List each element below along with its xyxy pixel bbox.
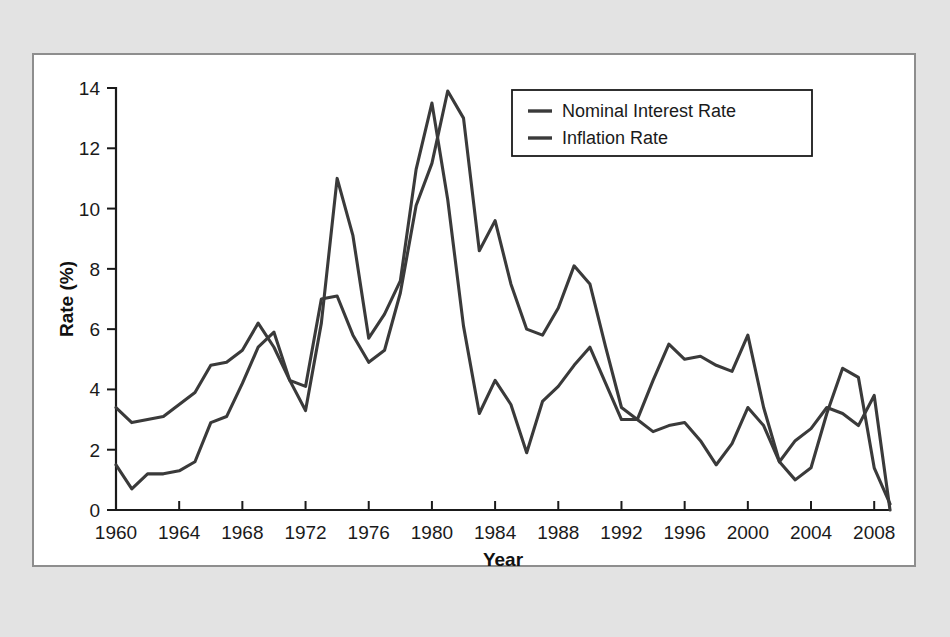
x-axis-title-hit [455,548,551,572]
y-axis-title-hit [52,255,80,347]
screenshot-root: 02468101214 1960196419681972197619801984… [0,0,950,637]
legend-hit-area[interactable] [512,90,812,156]
